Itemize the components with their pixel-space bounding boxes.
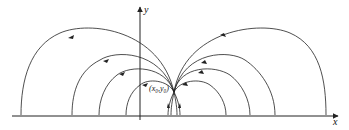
right-field-lines bbox=[174, 28, 326, 115]
x-axis-label: x bbox=[333, 116, 337, 127]
field-lines-diagram: y x (x₀,y₀) bbox=[0, 0, 349, 130]
diagram-canvas bbox=[0, 0, 349, 130]
point-label: (x₀,y₀) bbox=[149, 84, 169, 93]
near-point-lines bbox=[168, 92, 180, 115]
left-field-lines bbox=[21, 28, 174, 115]
direction-arrows bbox=[68, 33, 226, 108]
y-axis-label: y bbox=[144, 4, 148, 15]
